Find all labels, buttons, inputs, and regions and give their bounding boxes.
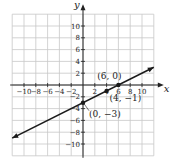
x-tick-label: −10 xyxy=(17,88,32,96)
point-label: (4, −1) xyxy=(110,93,142,103)
y-tick-label: 8 xyxy=(76,34,80,42)
x-axis-label: x xyxy=(164,83,170,94)
point-label: (0, −3) xyxy=(89,109,121,119)
y-axis-arrow-icon xyxy=(81,4,86,10)
x-tick-label: 2 xyxy=(93,88,97,96)
axes: xy xyxy=(10,0,170,158)
x-tick-label: −6 xyxy=(42,88,53,96)
point-label: (6, 0) xyxy=(97,71,121,81)
y-tick-label: −8 xyxy=(70,129,80,137)
y-tick-label: −10 xyxy=(65,141,80,149)
y-axis-label: y xyxy=(73,0,80,10)
x-tick-label: −8 xyxy=(31,88,41,96)
data-point xyxy=(104,89,108,93)
x-tick-label: −4 xyxy=(54,88,65,96)
y-tick-label: 4 xyxy=(76,58,81,66)
y-tick-label: 6 xyxy=(76,46,81,54)
y-tick-label: −2 xyxy=(70,93,80,101)
coordinate-plane: xy −10−8−6−4−2246810108642−2−4−6−8−10 (6… xyxy=(0,0,176,166)
data-point xyxy=(116,83,120,87)
y-tick-label: −6 xyxy=(70,117,81,125)
y-tick-label: 2 xyxy=(76,70,80,78)
y-tick-label: 10 xyxy=(71,23,80,31)
